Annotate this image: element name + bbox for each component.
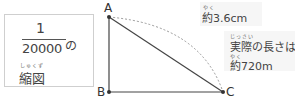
actual-length-line2: 約720m [230,57,273,73]
arc-length-label: 約3.6cm [202,9,247,25]
point-c-label: C [226,85,234,99]
point-c-dot [221,90,225,94]
point-b-label: B [97,85,105,99]
side-ac [109,17,223,92]
point-a-label: A [104,1,112,15]
point-b-dot [107,90,111,94]
point-a-dot [107,15,111,19]
